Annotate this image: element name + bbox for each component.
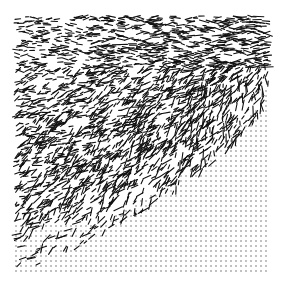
dash-field	[12, 15, 273, 267]
dash-field-figure	[0, 0, 285, 290]
